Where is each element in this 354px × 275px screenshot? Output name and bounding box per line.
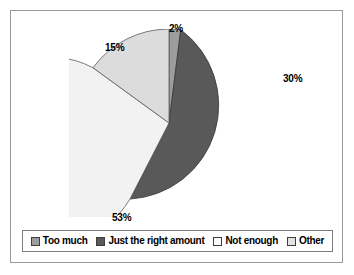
legend-label: Too much [43,236,88,246]
pie-chart-graphic [69,29,269,217]
pie-label-just-right: 30% [283,73,302,84]
pie-label-other: 15% [105,42,124,53]
legend-swatch-icon [287,237,296,246]
legend-swatch-icon [96,237,105,246]
legend-label: Other [299,236,324,246]
pie-label-not-enough: 53% [112,212,131,223]
legend-swatch-icon [31,237,40,246]
pie-plot-area: 2% 30% 15% 53% [11,11,344,221]
pie-label-too-much: 2% [169,23,183,34]
legend-item-not-enough[interactable]: Not enough [213,236,278,246]
legend-item-too-much[interactable]: Too much [31,236,88,246]
legend-label: Just the right amount [108,236,204,246]
legend-item-just-the-right-amount[interactable]: Just the right amount [96,236,204,246]
chart-frame: 2% 30% 15% 53% Too much Just the right a… [10,10,343,263]
legend-label: Not enough [225,236,278,246]
legend-swatch-icon [213,237,222,246]
legend-item-other[interactable]: Other [287,236,324,246]
chart-legend: Too much Just the right amount Not enoug… [22,230,333,252]
